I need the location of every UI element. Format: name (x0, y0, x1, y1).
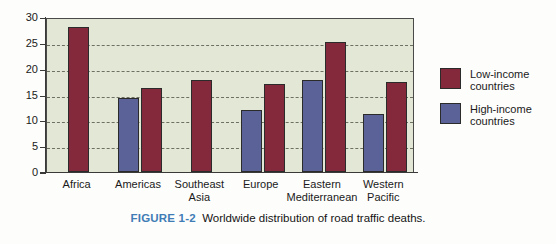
legend-label-low-income: Low-income countries (470, 68, 529, 92)
figure-caption: FIGURE 1-2 Worldwide distribution of roa… (0, 211, 556, 225)
y-tick: 15 (0, 90, 38, 101)
legend-swatch-high-income (440, 103, 461, 124)
y-tick-label: 15 (16, 90, 38, 101)
caption-figure-number: FIGURE 1-2 (131, 212, 196, 224)
y-tick-label: 25 (16, 38, 38, 49)
bar-low-income-europe (264, 84, 285, 172)
y-tick: 0 (0, 167, 38, 178)
y-tick: 10 (0, 115, 38, 126)
y-tick: 30 (0, 12, 38, 23)
bar-low-income-western-pacific (386, 82, 407, 172)
legend-swatch-low-income (440, 68, 461, 89)
y-tick: 5 (0, 141, 38, 152)
bar-low-income-southeast-asia (191, 80, 212, 172)
bar-high-income-western-pacific (363, 114, 384, 172)
bar-high-income-americas (118, 98, 139, 172)
bar-low-income-americas (141, 88, 162, 172)
y-tick-label: 10 (16, 115, 38, 126)
legend: Low-income countriesHigh-income countrie… (440, 68, 532, 138)
bar-low-income-eastern-mediterranean (325, 42, 346, 172)
figure-container: 051015202530 AfricaAmericasSoutheast Asi… (0, 0, 556, 244)
x-axis-label-western-pacific: Western Pacific (341, 178, 426, 203)
legend-item-high-income: High-income countries (440, 103, 532, 127)
caption-description: Worldwide distribution of road traffic d… (202, 212, 425, 224)
legend-item-low-income: Low-income countries (440, 68, 532, 92)
y-tick-label: 0 (16, 167, 38, 178)
y-tick-label: 5 (16, 141, 38, 152)
bars-layer (47, 19, 413, 172)
bar-high-income-europe (241, 110, 262, 172)
y-tick: 20 (0, 64, 38, 75)
x-axis-line (40, 172, 418, 173)
bar-low-income-africa (68, 27, 89, 172)
y-tick: 25 (0, 38, 38, 49)
legend-label-high-income: High-income countries (470, 103, 532, 127)
y-tick-label: 30 (16, 12, 38, 23)
plot-area (46, 18, 414, 173)
y-axis-line (45, 17, 46, 174)
y-tick-label: 20 (16, 64, 38, 75)
bar-high-income-eastern-mediterranean (302, 80, 323, 172)
